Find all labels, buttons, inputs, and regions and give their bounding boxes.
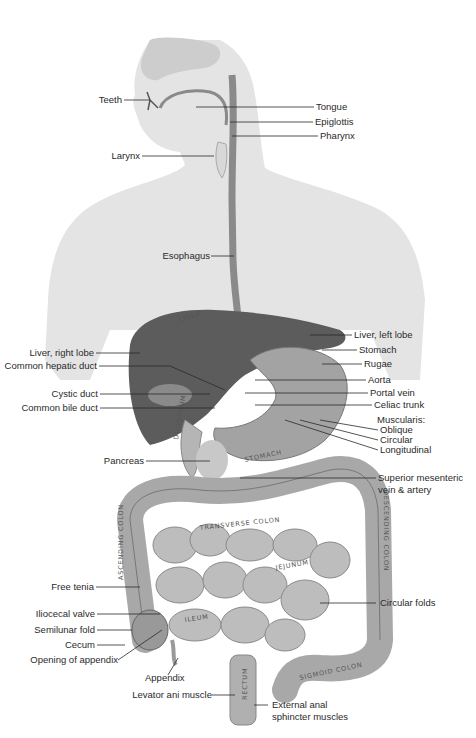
label-common-hepatic-duct: Common hepatic duct: [5, 360, 97, 371]
transverse-colon-inscription: TRANSVERSE COLON: [198, 516, 280, 533]
pancreas-shape: [196, 440, 228, 480]
cecum-shape: [132, 610, 168, 650]
label-larynx: Larynx: [111, 150, 140, 161]
label-epiglottis: Epiglottis: [315, 116, 354, 127]
label-appendix: Appendix: [145, 672, 185, 683]
descending-colon-inscription: DESCENDING COLON: [382, 490, 390, 571]
label-teeth: Teeth: [99, 94, 122, 105]
label-external-anal: External anal: [272, 699, 327, 710]
label-circular-folds: Circular folds: [380, 597, 435, 608]
label-sphincter-muscles: sphincter muscles: [272, 711, 348, 722]
label-longitudinal: Longitudinal: [380, 444, 431, 455]
label-opening-of-appendix: Opening of appendix: [30, 654, 118, 665]
label-rugae: Rugae: [364, 358, 392, 369]
label-iliocecal-valve: Iliocecal valve: [36, 608, 95, 619]
label-common-bile-duct: Common bile duct: [21, 402, 98, 413]
label-aorta: Aorta: [368, 374, 391, 385]
ascending-colon-inscription: ASCENDING COLON: [117, 504, 125, 580]
label-portal-vein: Portal vein: [370, 387, 415, 398]
label-esophagus: Esophagus: [162, 250, 210, 261]
label-cystic-duct: Cystic duct: [52, 388, 98, 399]
label-cecum: Cecum: [65, 639, 95, 650]
label-vein-and-artery: vein & artery: [378, 484, 431, 495]
label-tongue: Tongue: [316, 101, 347, 112]
small-intestine: [153, 524, 350, 651]
label-pancreas: Pancreas: [104, 455, 144, 466]
label-semilunar-fold: Semilunar fold: [34, 624, 95, 635]
label-liver-left-lobe: Liver, left lobe: [354, 329, 413, 340]
jejunum-inscription: JEJUNUM: [274, 558, 309, 572]
label-stomach: Stomach: [359, 344, 397, 355]
rectum-inscription: RECTUM: [241, 668, 249, 700]
label-liver-right-lobe: Liver, right lobe: [30, 347, 94, 358]
appendix-shape: [172, 640, 176, 665]
label-superior-mesenteric: Superior mesenteric: [378, 472, 463, 483]
label-pharynx: Pharynx: [320, 130, 355, 141]
digestive-system-diagram: LIVER STOMACH TRANSVERSE COLON ASCENDING…: [0, 0, 476, 738]
label-free-tenia: Free tenia: [51, 581, 94, 592]
label-celiac-trunk: Celiac trunk: [374, 399, 424, 410]
label-levator-ani-muscle: Levator ani muscle: [132, 689, 212, 700]
